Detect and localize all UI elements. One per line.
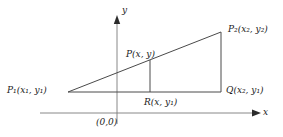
y-axis-label: y (122, 5, 127, 15)
point-label-p: P(x, y) (126, 50, 155, 59)
coordinate-geometry-diagram: P₁(x₁, y₁) P₂(x₂, y₂) P(x, y) Q(x₂, y₁) … (0, 0, 283, 137)
x-axis-label: x (263, 107, 268, 117)
point-label-r: R(x, y₁) (144, 98, 177, 107)
y-axis-arrowhead (114, 15, 120, 24)
point-label-q: Q(x₂, y₁) (226, 86, 264, 95)
point-label-p2: P₂(x₂, y₂) (228, 25, 268, 34)
diagram-canvas (0, 0, 283, 137)
x-axis-arrowhead (252, 110, 261, 117)
origin-label: (0,0) (96, 117, 117, 127)
point-label-p1: P₁(x₁, y₁) (7, 86, 47, 95)
segment-hypotenuse-p1-p2 (68, 32, 221, 92)
